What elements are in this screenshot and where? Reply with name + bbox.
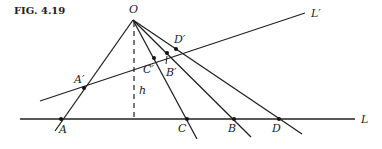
label-h: h bbox=[139, 84, 146, 97]
point-A bbox=[59, 117, 63, 121]
point-A-prime bbox=[82, 86, 86, 90]
projection-diagram: FIG. 4.19 O L′ L D′ C′ B′ A′ h A C B D bbox=[0, 0, 382, 149]
label-B: B bbox=[227, 122, 236, 135]
label-D-prime: D′ bbox=[173, 33, 186, 46]
point-C bbox=[185, 117, 189, 121]
point-D bbox=[277, 117, 281, 121]
label-A: A bbox=[58, 123, 67, 136]
label-C: C bbox=[178, 122, 187, 135]
ray-OC bbox=[133, 20, 197, 139]
point-B-prime bbox=[165, 51, 169, 55]
point-D-prime bbox=[174, 47, 178, 51]
label-L: L bbox=[360, 113, 368, 126]
label-O: O bbox=[129, 3, 138, 16]
ray-OA bbox=[55, 20, 133, 131]
label-L-prime: L′ bbox=[310, 7, 321, 20]
label-D: D bbox=[271, 122, 281, 135]
label-B-prime: B′ bbox=[165, 66, 177, 79]
line-L-prime bbox=[40, 13, 305, 101]
point-B bbox=[232, 117, 236, 121]
label-C-prime: C′ bbox=[143, 63, 154, 76]
figure-caption: FIG. 4.19 bbox=[14, 5, 65, 16]
label-A-prime: A′ bbox=[73, 73, 85, 86]
ray-OD bbox=[133, 20, 302, 134]
point-C-prime bbox=[152, 56, 156, 60]
b-prime-pointer bbox=[166, 56, 167, 64]
